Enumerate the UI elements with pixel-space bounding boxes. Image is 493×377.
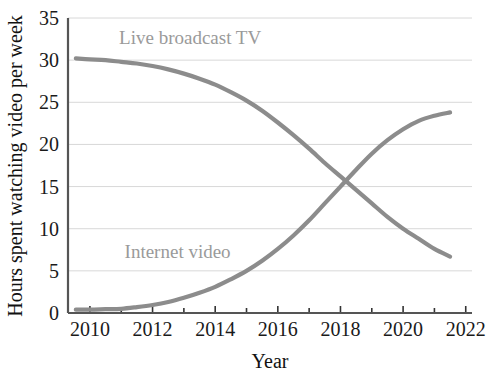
y-tick-label: 0 (49, 302, 59, 324)
x-axis-title: Year (252, 350, 289, 372)
y-tick-label: 25 (39, 91, 59, 113)
line-chart: 05101520253035 2010201220142016201820202… (0, 0, 493, 377)
x-tick-label: 2010 (70, 318, 110, 340)
y-axis-title: Hours spent watching video per week (4, 15, 27, 317)
x-tick-label: 2016 (258, 318, 298, 340)
y-tick-label: 20 (39, 133, 59, 155)
series-label-1: Internet video (125, 241, 231, 262)
x-tick-label: 2022 (446, 318, 486, 340)
x-tick-label: 2014 (195, 318, 235, 340)
y-tick-label: 35 (39, 7, 59, 29)
chart-figure: 05101520253035 2010201220142016201820202… (0, 0, 493, 377)
series-label-0: Live broadcast TV (119, 27, 261, 48)
y-tick-label: 10 (39, 218, 59, 240)
x-tick-label: 2012 (133, 318, 173, 340)
y-tick-label: 5 (49, 260, 59, 282)
y-tick-label: 15 (39, 176, 59, 198)
y-tick-label: 30 (39, 49, 59, 71)
x-tick-label: 2018 (320, 318, 360, 340)
x-tick-label: 2020 (383, 318, 423, 340)
